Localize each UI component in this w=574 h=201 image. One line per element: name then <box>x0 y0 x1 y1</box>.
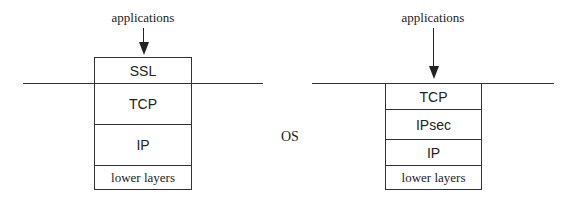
left-layer-ip: IP <box>95 124 191 165</box>
right-applications-label: applications <box>402 10 465 26</box>
right-layer-tcp: TCP <box>386 84 481 109</box>
os-label: OS <box>281 129 299 145</box>
right-arrow-head-icon <box>429 66 439 79</box>
left-layer-ssl: SSL <box>95 58 191 84</box>
left-arrow-head-icon <box>139 42 149 55</box>
left-layer-lower: lower layers <box>95 165 191 190</box>
left-protocol-box: SSL TCP IP lower layers <box>94 57 192 190</box>
right-layer-lower: lower layers <box>386 165 481 190</box>
right-arrow-shaft <box>433 28 434 68</box>
right-protocol-box: TCP IPsec IP lower layers <box>385 83 482 190</box>
left-layer-tcp: TCP <box>95 84 191 124</box>
left-ssl-tcp-divider <box>94 83 192 84</box>
right-layer-ipsec: IPsec <box>386 109 481 139</box>
right-layer-ip: IP <box>386 139 481 165</box>
left-applications-label: applications <box>112 10 175 26</box>
